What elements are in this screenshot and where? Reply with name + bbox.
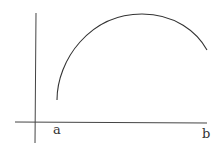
x-axis bbox=[15, 122, 207, 123]
diagram-canvas: a b bbox=[0, 0, 224, 147]
y-axis bbox=[35, 13, 36, 143]
function-curve bbox=[57, 14, 207, 100]
label-a: a bbox=[53, 122, 61, 137]
label-b: b bbox=[202, 126, 210, 141]
diagram-svg: a b bbox=[0, 0, 224, 147]
